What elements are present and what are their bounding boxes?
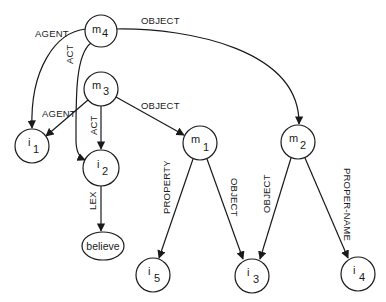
node-i3-sub: 3 [253,273,259,285]
edge-label-m4-i1: AGENT [35,28,69,39]
node-m4-sub: 4 [102,27,108,39]
edge-m2-i4-proper-name [305,158,348,258]
node-i4-base: i [353,264,355,276]
node-i4: i 4 [341,257,375,291]
semantic-network-diagram: AGENT ACT OBJECT AGENT ACT OBJECT LEX PR… [0,0,386,302]
node-i3-base: i [247,266,249,278]
node-m4: m 4 [85,15,117,47]
node-i3: i 3 [235,259,269,293]
node-m3-sub: 3 [103,85,109,97]
node-m1-sub: 1 [203,141,209,153]
edge-label-m2-i3: OBJECT [261,174,272,213]
node-i5-sub: 5 [154,272,160,284]
edge-label-m3-m1: OBJECT [141,100,180,111]
edge-label-m1-i3: OBJECT [229,178,240,217]
node-i5-base: i [148,265,150,277]
node-m2-sub: 2 [300,139,306,151]
node-believe: believe [82,232,124,260]
node-i4-sub: 4 [359,271,365,283]
node-i1-base: i [28,136,30,148]
node-i5: i 5 [136,258,170,292]
node-i1-sub: 1 [33,143,39,155]
edge-label-i2-believe: LEX [87,191,98,210]
node-m2-base: m [289,132,298,144]
edge-label-m3-i1: AGENT [42,108,76,119]
node-m4-base: m [92,23,101,35]
edge-label-m3-i2: ACT [88,115,99,135]
node-m1: m 1 [183,126,217,160]
node-m3-base: m [92,79,101,91]
edge-label-m1-i5: PROPERTY [161,160,172,214]
node-m1-base: m [191,133,200,145]
node-m3: m 3 [84,72,118,106]
node-i1: i 1 [15,129,49,163]
node-m2: m 2 [281,125,315,159]
edge-label-m2-i4: PROPER-NAME [342,168,353,241]
edge-label-m4-i2: ACT [64,44,75,64]
node-i2-sub: 2 [102,165,108,177]
node-i2: i 2 [83,150,119,186]
node-believe-label: believe [86,240,119,252]
node-i2-base: i [97,158,99,170]
edge-label-m4-m2: OBJECT [141,15,180,26]
